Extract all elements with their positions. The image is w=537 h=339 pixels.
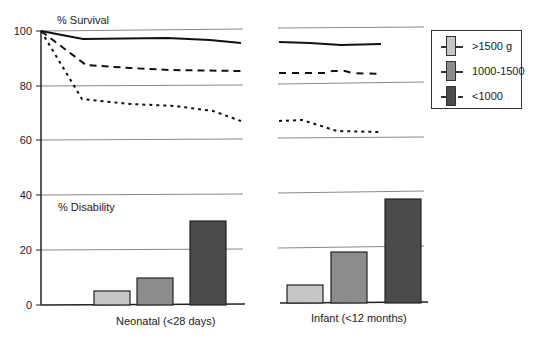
legend-label: 1000-1500 [472, 65, 525, 77]
legend: >1500 g 1000-1500 <1000 [431, 30, 522, 109]
legend-item-lt1000: <1000 [432, 86, 521, 108]
legend-swatch-light [446, 36, 456, 56]
survival-line-gt1500-infant [279, 42, 381, 45]
tick-80: 80 [20, 80, 32, 92]
survival-line-lt1000-neonatal [41, 31, 241, 121]
legend-item-gt1500: >1500 g [432, 36, 521, 58]
survival-line-lt1000-infant [279, 120, 380, 132]
bar-infant-1000-1500 [331, 252, 367, 303]
legend-item-1000-1500: 1000-1500 [432, 61, 521, 83]
bar-neonatal-1000-1500 [137, 278, 173, 305]
survival-line-gt1500-neonatal [41, 31, 241, 43]
bar-infant-gt1500 [287, 285, 323, 303]
legend-label: >1500 g [472, 40, 512, 52]
bar-infant-lt1000 [385, 199, 421, 303]
disability-label: % Disability [58, 201, 115, 213]
legend-label: <1000 [472, 90, 503, 102]
tick-40: 40 [20, 189, 32, 201]
tick-20: 20 [20, 244, 32, 256]
legend-swatch-dark [446, 86, 456, 106]
x-label-infant: Infant (<12 months) [311, 312, 407, 324]
gridlines-left [41, 29, 243, 250]
tick-0: 0 [26, 299, 32, 311]
bar-neonatal-gt1500 [94, 291, 130, 305]
tick-60: 60 [20, 134, 32, 146]
legend-swatch-mid [446, 61, 456, 81]
bar-neonatal-lt1000 [190, 221, 226, 305]
survival-line-1000-1500-infant [279, 71, 380, 74]
survival-label: % Survival [57, 14, 109, 26]
tick-100: 100 [14, 25, 32, 37]
x-label-neonatal: Neonatal (<28 days) [116, 315, 215, 327]
